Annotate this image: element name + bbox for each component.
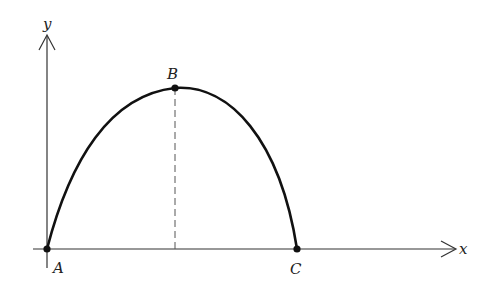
diagram-canvas: y x A B C — [0, 0, 491, 281]
point-c-dot — [293, 245, 300, 252]
point-c-label: C — [290, 260, 302, 278]
point-b-dot — [171, 84, 178, 91]
trajectory-curve — [47, 88, 297, 249]
point-a-dot — [43, 245, 50, 252]
y-axis-label: y — [42, 15, 52, 33]
point-b-label: B — [166, 65, 178, 83]
x-axis-label: x — [459, 240, 468, 258]
x-axis — [33, 241, 456, 257]
trajectory-diagram: y x A B C — [0, 0, 491, 281]
point-a-label: A — [51, 259, 64, 277]
